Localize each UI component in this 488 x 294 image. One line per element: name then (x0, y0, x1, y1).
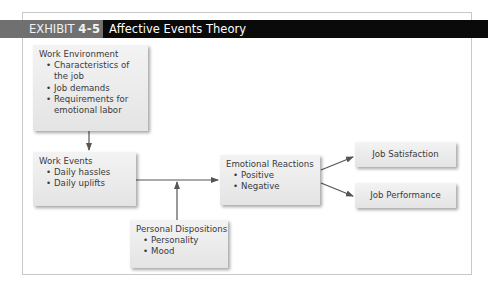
node-work-environment: Work Environment Characteristics of the … (33, 45, 148, 131)
list-item: Mood (143, 246, 222, 257)
list-item: Daily uplifts (46, 178, 130, 189)
node-heading: Job Satisfaction (372, 149, 438, 160)
node-heading: Job Performance (370, 190, 440, 201)
list-item: Job demands (46, 83, 142, 94)
list-item: Personality (143, 235, 222, 246)
list-item: Positive (233, 170, 314, 181)
node-heading: Work Events (39, 156, 130, 167)
list-item: Requirements for emotional labor (46, 94, 142, 116)
node-emotional-reactions: Emotional Reactions Positive Negative (220, 155, 320, 205)
arrow-to-performance (321, 183, 353, 196)
arrow-to-satisfaction (321, 157, 353, 170)
list-item: Daily hassles (46, 167, 130, 178)
node-heading: Work Environment (39, 49, 142, 60)
node-heading: Emotional Reactions (226, 159, 314, 170)
node-heading: Personal Dispositions (136, 224, 222, 235)
list-item: Characteristics of the job (46, 60, 142, 82)
list-item: Negative (233, 181, 314, 192)
node-work-events: Work Events Daily hassles Daily uplifts (33, 152, 136, 206)
node-job-satisfaction: Job Satisfaction (355, 142, 456, 167)
node-personal-dispositions: Personal Dispositions Personality Mood (130, 220, 228, 268)
node-job-performance: Job Performance (355, 183, 456, 208)
